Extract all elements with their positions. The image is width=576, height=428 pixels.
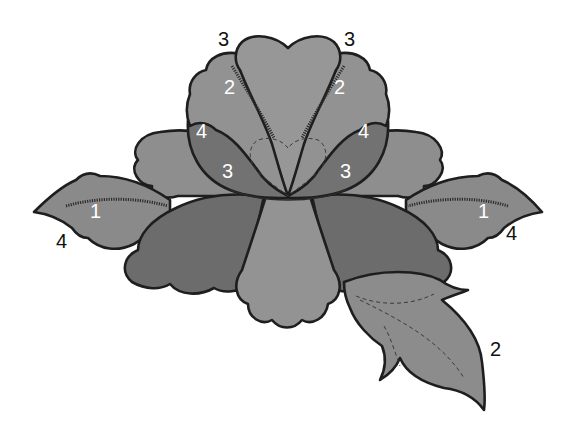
label-inner-left-2: 2 bbox=[224, 76, 235, 98]
label-top-right-3: 3 bbox=[344, 28, 355, 50]
flower-diagram: 3 3 2 2 4 4 3 3 1 4 1 4 2 bbox=[0, 0, 576, 428]
label-leaf-left-4: 4 bbox=[56, 230, 67, 252]
label-big-leaf-2: 2 bbox=[490, 338, 501, 360]
flower-cup bbox=[187, 36, 389, 200]
label-cup-left-3: 3 bbox=[222, 160, 233, 182]
label-cup-right-4: 4 bbox=[358, 120, 369, 142]
lower-right-leaf bbox=[344, 272, 485, 410]
label-leaf-right-1: 1 bbox=[478, 200, 489, 222]
label-top-left-3: 3 bbox=[218, 28, 229, 50]
label-leaf-left-1: 1 bbox=[90, 200, 101, 222]
label-cup-left-4: 4 bbox=[196, 120, 207, 142]
label-inner-right-2: 2 bbox=[334, 76, 345, 98]
label-cup-right-3: 3 bbox=[340, 160, 351, 182]
label-leaf-right-4: 4 bbox=[506, 222, 517, 244]
